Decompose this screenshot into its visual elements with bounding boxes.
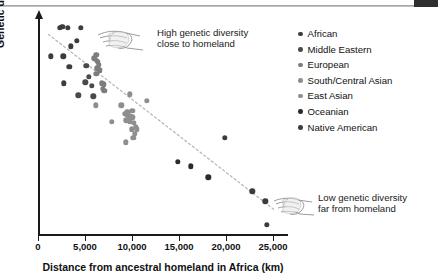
low-diversity-annotation: Low genetic diversity far from homeland [318,192,407,215]
legend-swatch-icon [298,94,303,99]
legend-item-east-asian[interactable]: East Asian [298,88,436,104]
legend: AfricanMiddle EasternEuropeanSouth/Centr… [298,26,436,135]
top-divider [0,5,438,7]
x-axis-label: Distance from ancestral homeland in Afri… [38,261,288,273]
x-axis-tick-label: 25,000 [258,241,287,252]
x-axis-tick-label: 5,000 [73,241,97,252]
high-diversity-annotation-line2: close to homeland [157,38,248,49]
legend-swatch-icon [298,78,303,83]
x-axis-tick-label: 10,000 [117,241,146,252]
high-diversity-annotation: High genetic diversity close to homeland [157,27,248,50]
low-diversity-annotation-line1: Low genetic diversity [318,192,407,203]
trendline [38,18,288,236]
legend-item-african[interactable]: African [298,26,436,42]
legend-item-label: East Asian [308,91,353,101]
legend-swatch-icon [298,125,303,130]
legend-item-middle-eastern[interactable]: Middle Eastern [298,42,436,58]
pointing-hand-icon-top [96,26,154,58]
legend-swatch-icon [298,32,303,37]
high-diversity-annotation-line1: High genetic diversity [157,27,248,38]
low-diversity-annotation-line2: far from homeland [318,203,407,214]
legend-item-label: Oceanian [308,107,349,117]
x-axis-tick-label: 15,000 [164,241,193,252]
top-right-dark-bar [414,0,438,7]
pointing-hand-icon-bottom [272,193,320,223]
x-axis-tick-label: 20,000 [211,241,240,252]
legend-item-european[interactable]: European [298,57,436,73]
legend-swatch-icon [298,109,303,114]
x-axis-tick-label: 0 [35,241,40,252]
legend-item-label: Middle Eastern [308,45,372,55]
legend-item-oceanian[interactable]: Oceanian [298,104,436,120]
legend-item-native-american[interactable]: Native American [298,120,436,136]
legend-item-south-central-asian[interactable]: South/Central Asian [298,73,436,89]
legend-swatch-icon [298,47,303,52]
legend-item-label: European [308,60,350,70]
plot-area [38,18,288,236]
legend-item-label: African [308,29,338,39]
y-axis-label: Genetic diversity [0,0,6,48]
legend-swatch-icon [298,63,303,68]
figure-scatter-genetic-diversity: 05,00010,00015,00020,00025,000 Genetic d… [0,0,438,279]
legend-item-label: Native American [308,123,378,133]
legend-item-label: South/Central Asian [308,76,393,86]
